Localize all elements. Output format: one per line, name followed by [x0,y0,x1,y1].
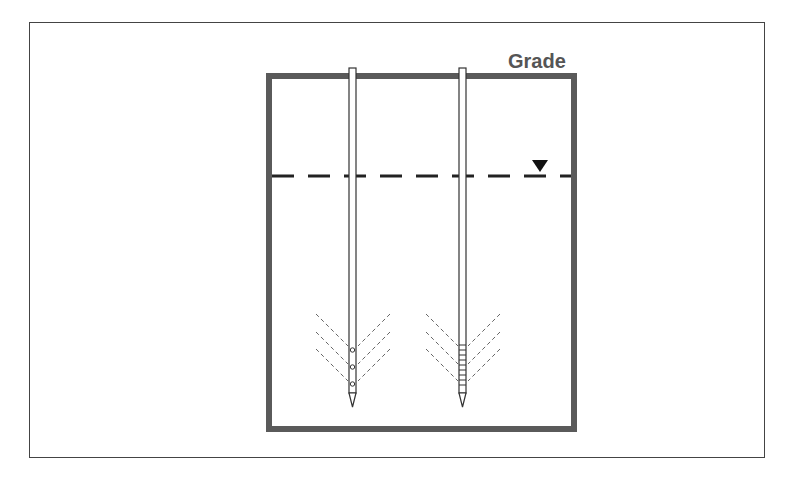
excavation-box [269,76,574,429]
well-diagram [0,0,803,481]
water-table-icon [532,160,548,172]
well-right [426,68,500,407]
well-left [316,68,390,407]
